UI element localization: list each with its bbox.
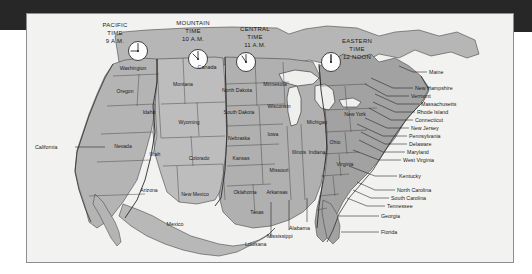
label-nebraska: Nebraska bbox=[228, 135, 250, 141]
tz-mountain-name: MOUNTAIN bbox=[176, 20, 210, 26]
mountain-zone-landmass bbox=[153, 57, 227, 204]
label-new-mexico: New Mexico bbox=[181, 191, 209, 197]
label-louisana: Louisana bbox=[245, 241, 267, 247]
clock-pacific bbox=[129, 42, 148, 61]
label-new-hampshire: New Hampshire bbox=[415, 85, 453, 91]
label-texas: Texas bbox=[250, 209, 264, 215]
label-north-carolina: North Carolina bbox=[397, 187, 431, 193]
label-montana: Montana bbox=[173, 81, 193, 87]
label-michigan: Michigan bbox=[307, 119, 328, 125]
label-oregon: Oregon bbox=[117, 88, 134, 94]
label-north-dakota: North Dakota bbox=[222, 87, 252, 93]
label-vermont: Vermont bbox=[411, 93, 431, 99]
tz-pacific-time-label: TIME bbox=[107, 30, 122, 36]
label-tennessee: Tennessee bbox=[387, 203, 413, 209]
label-mississippi: Mississippi bbox=[267, 233, 293, 239]
label-utah: Utah bbox=[150, 151, 161, 157]
tz-central-time-label: TIME bbox=[247, 34, 262, 40]
label-south-carolina: South Carolina bbox=[391, 195, 426, 201]
label-alabama: Alabama bbox=[289, 225, 310, 231]
label-wisconsin: Wisconsin bbox=[267, 103, 290, 109]
tz-eastern-time: 12 NOON bbox=[343, 54, 371, 60]
label-south-dakota: South Dakota bbox=[224, 109, 255, 115]
label-washington: Washington bbox=[120, 65, 147, 71]
label-delaware: Delaware bbox=[409, 141, 431, 147]
tz-pacific-time: 9 A.M. bbox=[106, 38, 125, 44]
time-zone-map-figure: PACIFIC TIME 9 A.M. MOUNTAIN TIME 10 A.M… bbox=[0, 0, 532, 274]
label-kentucky: Kentucky bbox=[399, 173, 421, 179]
label-florida: Florida bbox=[381, 229, 397, 235]
label-indiana: Indiana bbox=[309, 149, 326, 155]
tz-eastern-name: EASTERN bbox=[342, 38, 372, 44]
map-plate: PACIFIC TIME 9 A.M. MOUNTAIN TIME 10 A.M… bbox=[26, 13, 514, 263]
label-missouri: Missouri bbox=[270, 167, 289, 173]
tz-central-time: 11 A.M. bbox=[244, 42, 266, 48]
label-california: California bbox=[35, 144, 57, 150]
label-maine: Maine bbox=[429, 69, 443, 75]
label-canada: Canada bbox=[198, 64, 217, 70]
label-west-virginia: West Virginia bbox=[403, 157, 434, 163]
label-virginia: Virginia bbox=[337, 161, 354, 167]
label-ohio: Ohio bbox=[330, 139, 341, 145]
label-connecticut: Connecticut bbox=[415, 117, 443, 123]
label-arkansas: Arkansas bbox=[266, 189, 288, 195]
tz-mountain-time-label: TIME bbox=[185, 28, 200, 34]
label-oklahoma: Oklahoma bbox=[233, 189, 256, 195]
tz-central-name: CENTRAL bbox=[240, 26, 270, 32]
label-arizona: Arizona bbox=[140, 187, 157, 193]
label-wyoming: Wyoming bbox=[178, 119, 199, 125]
us-map-svg: PACIFIC TIME 9 A.M. MOUNTAIN TIME 10 A.M… bbox=[27, 14, 513, 262]
clock-central bbox=[237, 53, 256, 72]
label-illinois: Illinois bbox=[292, 149, 307, 155]
label-minnesota: Minnesota bbox=[263, 81, 287, 87]
label-colorado: Colorado bbox=[189, 155, 210, 161]
label-maryland: Maryland bbox=[407, 149, 429, 155]
label-new-york: New York bbox=[344, 111, 366, 117]
label-nevada: Nevada bbox=[114, 143, 132, 149]
tz-pacific-name: PACIFIC bbox=[103, 22, 128, 28]
label-pennsylvania: Pennsylvania bbox=[409, 133, 441, 139]
label-massachusetts: Massachusetts bbox=[421, 101, 457, 107]
clock-eastern bbox=[322, 53, 341, 72]
label-idaho: Idaho bbox=[143, 109, 156, 115]
label-new-jersey: New Jersey bbox=[411, 125, 439, 131]
label-kansas: Kansas bbox=[233, 155, 250, 161]
top-dark-band bbox=[0, 0, 532, 13]
label-georgia: Georgia bbox=[381, 213, 400, 219]
label-rhode-island: Rhode Island bbox=[417, 109, 448, 115]
label-mexico: Mexico bbox=[166, 221, 183, 227]
label-iowa: Iowa bbox=[268, 131, 279, 137]
tz-eastern-time-label: TIME bbox=[349, 46, 364, 52]
tz-mountain-time: 10 A.M. bbox=[182, 36, 204, 42]
